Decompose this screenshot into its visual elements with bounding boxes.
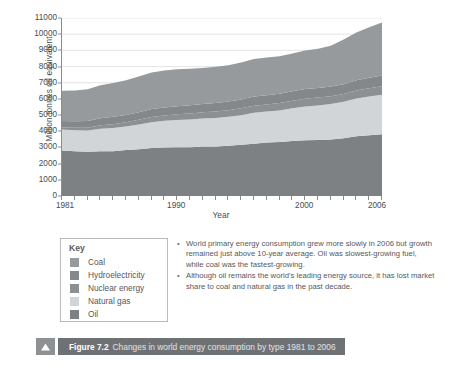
legend-item: Oil: [69, 308, 167, 321]
legend-swatch: [69, 257, 80, 268]
y-tick-label: 5000: [39, 111, 57, 119]
x-tick-mark: [330, 196, 331, 200]
y-tick-mark: [58, 131, 62, 132]
x-tick-label: 2006: [368, 202, 386, 210]
legend-label: Natural gas: [88, 297, 130, 305]
x-tick-mark: [176, 196, 177, 200]
stacked-area-chart: [62, 18, 382, 196]
x-tick-mark: [61, 196, 62, 200]
triangle-up-icon: [36, 338, 55, 355]
figure-caption: Figure 7.2 Changes in world energy consu…: [36, 338, 345, 355]
legend-swatch: [69, 309, 80, 320]
notes-bullet-list: World primary energy consumption grew mo…: [177, 239, 435, 293]
x-axis-label: Year: [61, 210, 381, 220]
x-tick-mark: [253, 196, 254, 200]
area-series-group: [62, 23, 382, 196]
note-bullet: Although oil remains the world's leading…: [177, 271, 435, 292]
y-tick-label: 1000: [39, 176, 57, 184]
legend: Key CoalHydroelectricityNuclear energyNa…: [60, 238, 168, 322]
legend-swatch: [69, 296, 80, 307]
x-tick-label: 2000: [295, 202, 313, 210]
y-tick-mark: [58, 34, 62, 35]
y-tick-label: 0: [52, 192, 57, 200]
y-tick-label: 9000: [39, 46, 57, 54]
y-tick-mark: [58, 50, 62, 51]
x-tick-mark: [368, 196, 369, 200]
y-tick-label: 11000: [35, 14, 57, 22]
y-tick-label: 8000: [39, 62, 57, 70]
x-tick-mark: [151, 196, 152, 200]
x-tick-mark: [343, 196, 344, 200]
y-tick-mark: [58, 66, 62, 67]
figure-number: Figure 7.2: [69, 342, 109, 352]
x-tick-label: 1990: [167, 202, 185, 210]
legend-swatch: [69, 270, 80, 281]
figure-page: Million tonnes oil equivalent 0100020003…: [0, 0, 450, 374]
x-tick-mark: [163, 196, 164, 200]
y-tick-label: 10000: [34, 30, 57, 38]
y-tick-label: 6000: [39, 95, 57, 103]
legend-title: Key: [69, 244, 167, 253]
legend-label: Coal: [88, 258, 105, 266]
y-tick-label: 3000: [39, 143, 57, 151]
legend-swatch: [69, 283, 80, 294]
plot-canvas: [61, 18, 381, 196]
y-tick-label: 2000: [39, 160, 57, 168]
x-tick-mark: [189, 196, 190, 200]
legend-label: Hydroelectricity: [88, 271, 145, 279]
x-tick-mark: [112, 196, 113, 200]
legend-items: CoalHydroelectricityNuclear energyNatura…: [69, 256, 167, 321]
x-tick-mark: [202, 196, 203, 200]
legend-item: Nuclear energy: [69, 282, 167, 295]
y-tick-mark: [58, 98, 62, 99]
y-tick-mark: [58, 115, 62, 116]
caption-bar: Figure 7.2 Changes in world energy consu…: [58, 338, 345, 355]
note-bullet: World primary energy consumption grew mo…: [177, 239, 435, 270]
x-tick-mark: [99, 196, 100, 200]
x-tick-mark: [355, 196, 356, 200]
figure-caption-text: Changes in world energy consumption by t…: [113, 342, 336, 352]
x-tick-mark: [74, 196, 75, 200]
x-tick-mark: [266, 196, 267, 200]
x-tick-mark: [138, 196, 139, 200]
legend-item: Hydroelectricity: [69, 269, 167, 282]
legend-label: Nuclear energy: [88, 284, 144, 292]
x-tick-mark: [317, 196, 318, 200]
x-tick-mark: [87, 196, 88, 200]
x-tick-mark: [227, 196, 228, 200]
y-tick-mark: [58, 18, 62, 19]
x-tick-mark: [279, 196, 280, 200]
x-tick-mark: [125, 196, 126, 200]
legend-label: Oil: [88, 310, 98, 318]
y-tick-mark: [58, 147, 62, 148]
legend-and-notes: Key CoalHydroelectricityNuclear energyNa…: [14, 238, 436, 326]
legend-item: Coal: [69, 256, 167, 269]
x-tick-mark: [304, 196, 305, 200]
x-tick-mark: [240, 196, 241, 200]
chart-area: Million tonnes oil equivalent 0100020003…: [14, 8, 434, 230]
y-tick-label: 7000: [39, 79, 57, 87]
plot-region: 0100020003000400050006000700080009000100…: [61, 18, 381, 196]
x-tick-label: 1981: [56, 202, 74, 210]
x-tick-mark: [381, 196, 382, 200]
y-tick-label: 4000: [39, 127, 57, 135]
x-tick-mark: [291, 196, 292, 200]
y-tick-mark: [58, 82, 62, 83]
x-tick-mark: [215, 196, 216, 200]
y-tick-mark: [58, 179, 62, 180]
y-tick-mark: [58, 163, 62, 164]
legend-item: Natural gas: [69, 295, 167, 308]
